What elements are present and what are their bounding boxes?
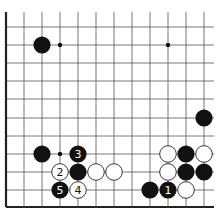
white-stone: [88, 164, 105, 181]
white-stone: 4: [70, 182, 87, 199]
star-point: [58, 43, 62, 47]
black-stone: [69, 163, 86, 180]
black-stone: [177, 163, 194, 180]
black-stone: [195, 109, 212, 126]
go-board: 32541: [0, 0, 220, 212]
white-stone: [160, 164, 177, 181]
white-stone: [178, 182, 195, 199]
black-stone: 1: [159, 181, 176, 198]
white-stone: 2: [52, 164, 69, 181]
black-stone: [177, 145, 194, 162]
black-stone: [195, 163, 212, 180]
star-point: [58, 152, 62, 156]
move-number: 2: [57, 166, 64, 179]
black-stone: [141, 181, 158, 198]
black-stone: 5: [51, 181, 68, 198]
white-stone: [196, 146, 213, 163]
black-stone: [33, 36, 50, 53]
black-stone: 3: [69, 145, 86, 162]
move-number: 5: [57, 184, 64, 197]
move-number: 4: [75, 184, 82, 197]
move-number: 1: [165, 184, 172, 197]
black-stone: [33, 145, 50, 162]
move-number: 3: [75, 148, 82, 161]
star-point: [166, 43, 170, 47]
white-stone: [160, 146, 177, 163]
white-stone: [106, 164, 123, 181]
